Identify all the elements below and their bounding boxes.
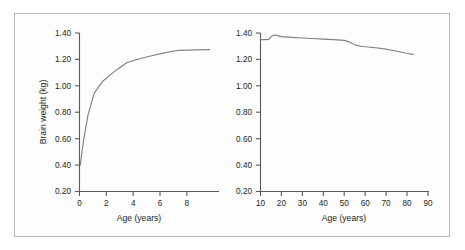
y-tick-label: 0.20 — [236, 187, 252, 196]
y-ticks-right — [256, 33, 261, 192]
y-tick-label: 1.20 — [236, 55, 252, 64]
brain-weight-curve-right — [261, 35, 414, 54]
brain-weight-curve-left — [80, 50, 209, 165]
x-tick-labels-right: 10 20 30 40 50 60 70 80 90 — [256, 199, 433, 208]
figure-root: 0.20 0.40 0.60 0.80 1.00 1.20 1.40 — [0, 0, 465, 250]
x-tick-label: 2 — [104, 199, 109, 208]
x-axis-title-left: Age (years) — [117, 213, 162, 223]
x-tick-label: 30 — [298, 199, 308, 208]
y-tick-label: 0.80 — [236, 108, 252, 117]
x-tick-label: 80 — [402, 199, 412, 208]
x-axis-title-right: Age (years) — [322, 213, 367, 223]
y-tick-label: 1.40 — [236, 29, 252, 38]
y-tick-label: 1.40 — [55, 29, 71, 38]
y-tick-label: 0.60 — [55, 135, 71, 144]
y-tick-label: 0.40 — [236, 161, 252, 170]
x-tick-labels-left: 0 2 4 6 8 — [77, 199, 189, 208]
x-tick-label: 4 — [131, 199, 136, 208]
y-tick-label: 1.20 — [55, 55, 71, 64]
chart-panel-right: 0.20 0.40 0.60 0.80 1.00 1.20 1.40 — [233, 14, 451, 238]
x-tick-label: 60 — [361, 199, 371, 208]
x-tick-label: 40 — [319, 199, 329, 208]
y-tick-labels-left: 0.20 0.40 0.60 0.80 1.00 1.20 1.40 — [55, 29, 71, 197]
x-tick-label: 8 — [185, 199, 190, 208]
x-tick-label: 0 — [77, 199, 82, 208]
x-tick-label: 70 — [382, 199, 392, 208]
x-tick-label: 90 — [423, 199, 433, 208]
y-ticks-left — [75, 33, 80, 192]
x-tick-label: 10 — [256, 199, 266, 208]
x-ticks-left — [80, 192, 187, 197]
y-axis-title-left: Brain weight (kg) — [38, 80, 48, 145]
y-tick-label: 1.00 — [236, 82, 252, 91]
brain-weight-early-childhood-chart: 0.20 0.40 0.60 0.80 1.00 1.20 1.40 — [15, 14, 233, 238]
x-tick-label: 50 — [340, 199, 350, 208]
chart-panel-left: 0.20 0.40 0.60 0.80 1.00 1.20 1.40 — [15, 14, 233, 238]
x-ticks-right — [261, 192, 429, 197]
y-tick-label: 0.20 — [55, 187, 71, 196]
brain-weight-adult-chart: 0.20 0.40 0.60 0.80 1.00 1.20 1.40 — [233, 14, 451, 238]
y-tick-label: 1.00 — [55, 82, 71, 91]
figure-frame: 0.20 0.40 0.60 0.80 1.00 1.20 1.40 — [14, 13, 450, 237]
y-tick-label: 0.40 — [55, 161, 71, 170]
y-tick-label: 0.60 — [236, 135, 252, 144]
x-tick-label: 6 — [158, 199, 163, 208]
y-tick-label: 0.80 — [55, 108, 71, 117]
x-tick-label: 20 — [277, 199, 287, 208]
y-tick-labels-right: 0.20 0.40 0.60 0.80 1.00 1.20 1.40 — [236, 29, 252, 197]
